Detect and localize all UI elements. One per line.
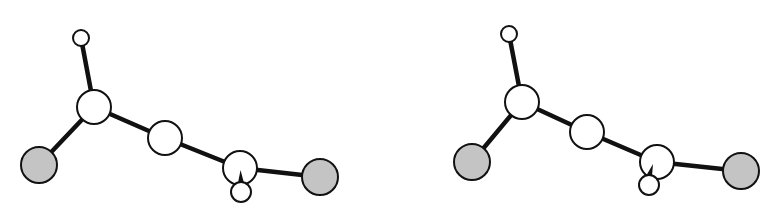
atom-c3 [640,145,674,179]
stereo-molecule-diagram [0,0,779,217]
molecule-right-view [454,26,759,195]
atom-x2-halogen [302,159,338,195]
atom-h1 [73,30,89,46]
atom-x1-halogen [21,147,57,183]
atom-c1 [77,90,111,124]
molecule-left-view [21,30,338,202]
atom-x1-halogen [454,144,490,180]
atom-c1 [505,85,539,119]
atom-c2 [148,121,182,155]
atom-c2 [570,115,604,149]
atom-h2 [231,182,251,202]
atom-h1 [501,26,517,42]
atom-h2 [639,175,659,195]
atom-x2-halogen [723,153,759,189]
